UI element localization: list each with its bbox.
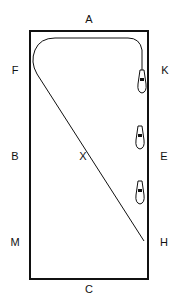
marker-f: F — [12, 65, 19, 76]
marker-e: E — [160, 151, 167, 162]
marker-m: M — [10, 237, 19, 248]
marker-b: B — [11, 151, 18, 162]
riding-path — [33, 38, 144, 241]
marker-h: H — [160, 237, 168, 248]
marker-a: A — [85, 14, 92, 25]
marker-x: X — [79, 151, 86, 162]
horse-icon — [138, 70, 146, 93]
horse-icon — [136, 126, 144, 149]
marker-c: C — [85, 284, 93, 295]
marker-k: K — [161, 65, 168, 76]
arena-diagram — [0, 0, 178, 303]
horse-icon — [136, 181, 144, 204]
